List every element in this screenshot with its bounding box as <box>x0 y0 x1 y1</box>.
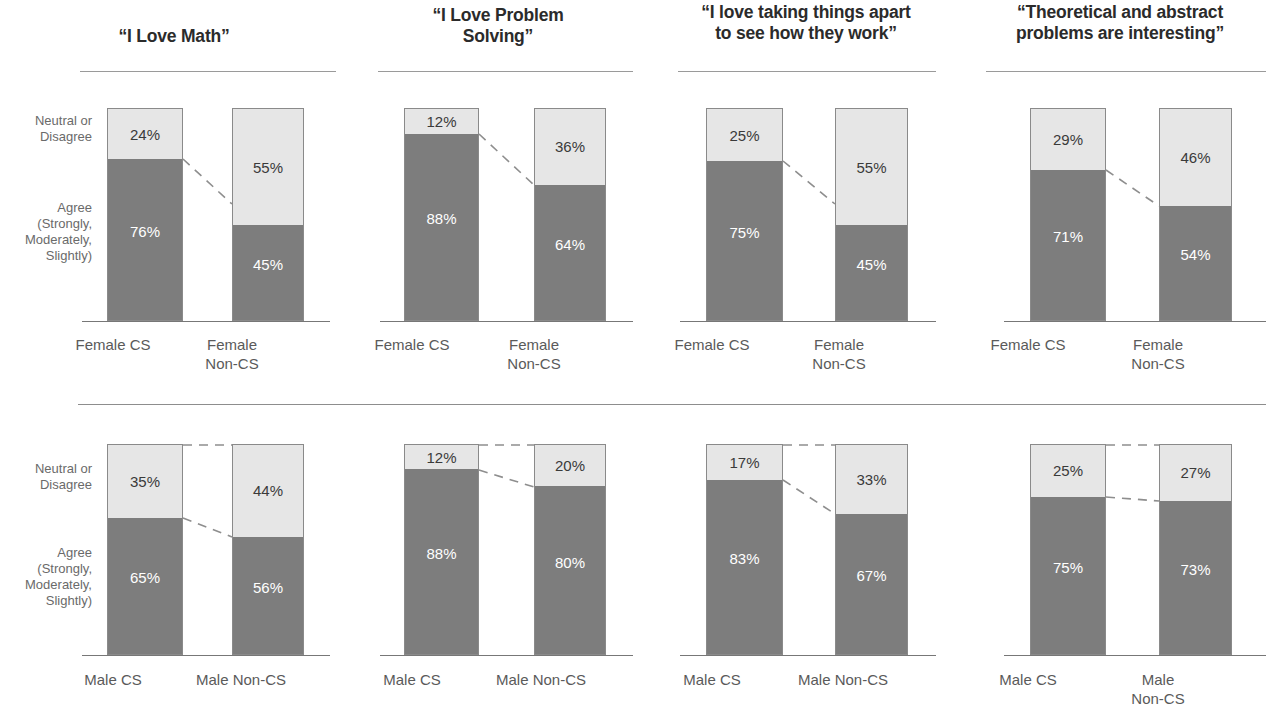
segment-neutral-or-disagree: 27% <box>1159 444 1232 501</box>
panel-love-math-male: 35% 65% 44% 56% <box>0 400 348 717</box>
segment-agree: 75% <box>1030 497 1106 655</box>
x-label-female-non-cs: Female Non-CS <box>176 335 288 373</box>
x-label-male-cs: Male CS <box>656 670 768 689</box>
segment-neutral-or-disagree: 36% <box>534 108 606 185</box>
segment-value-label: 12% <box>426 114 456 129</box>
bar-female-cs: 25% 75% <box>706 108 783 321</box>
bar-male-non-cs: 33% 67% <box>835 444 908 655</box>
title-underline <box>378 71 633 72</box>
bar-female-cs: 24% 76% <box>107 108 183 321</box>
segment-value-label: 75% <box>729 225 759 240</box>
baseline-axis <box>680 321 936 322</box>
segment-value-label: 44% <box>253 483 283 498</box>
segment-neutral-or-disagree: 12% <box>404 108 479 134</box>
panel-title-line-1: “Theoretical and abstract <box>964 2 1276 23</box>
segment-value-label: 55% <box>856 160 886 175</box>
x-label-male-non-cs: Male Non-CS <box>176 670 306 689</box>
segment-agree: 65% <box>107 518 183 655</box>
x-label-female-cs: Female CS <box>656 335 768 354</box>
panel-love-problem-solving-male: 12% 88% 20% 80% <box>348 400 648 717</box>
x-label-female-non-cs: Female Non-CS <box>783 335 895 373</box>
bar-male-non-cs: 44% 56% <box>232 444 304 655</box>
segment-agree: 76% <box>107 159 183 321</box>
segment-agree: 73% <box>1159 501 1232 655</box>
segment-value-label: 83% <box>729 551 759 566</box>
segment-neutral-or-disagree: 20% <box>534 444 606 486</box>
plot-area: 25% 75% 27% 73% <box>1004 444 1266 656</box>
segment-neutral-or-disagree: 29% <box>1030 108 1106 170</box>
baseline-axis <box>380 655 633 656</box>
segment-agree: 83% <box>706 480 783 655</box>
chart-row-female: Neutral or Disagree Agree (Strongly, Mod… <box>0 0 1276 400</box>
segment-neutral-or-disagree: 17% <box>706 444 783 480</box>
segment-value-label: 25% <box>1053 463 1083 478</box>
segment-value-label: 80% <box>555 555 585 570</box>
panel-theoretical-abstract-female: “Theoretical and abstract problems are i… <box>964 0 1276 400</box>
segment-value-label: 55% <box>253 160 283 175</box>
plot-area: 29% 71% 46% 54% <box>1004 108 1266 322</box>
bar-male-non-cs: 27% 73% <box>1159 444 1232 655</box>
segment-agree: 54% <box>1159 206 1232 321</box>
segment-agree: 71% <box>1030 170 1106 321</box>
segment-value-label: 45% <box>253 257 283 272</box>
segment-value-label: 12% <box>426 450 456 465</box>
segment-agree: 80% <box>534 486 606 655</box>
bar-female-non-cs: 55% 45% <box>232 108 304 321</box>
bar-male-cs: 35% 65% <box>107 444 183 655</box>
segment-agree: 45% <box>835 225 908 321</box>
bar-male-non-cs: 20% 80% <box>534 444 606 655</box>
x-label-female-cs: Female CS <box>972 335 1084 354</box>
x-label-male-cs: Male CS <box>57 670 169 689</box>
segment-value-label: 75% <box>1053 560 1083 575</box>
segment-value-label: 65% <box>130 570 160 585</box>
segment-value-label: 88% <box>426 546 456 561</box>
segment-agree: 56% <box>232 537 304 655</box>
plot-area: 25% 75% 55% 45% <box>680 108 936 322</box>
panel-taking-things-apart-male: 17% 83% 33% 67% <box>648 400 964 717</box>
x-label-female-non-cs: Female Non-CS <box>1102 335 1214 373</box>
title-underline <box>678 71 936 72</box>
segment-value-label: 76% <box>130 224 160 239</box>
panel-love-problem-solving-female: “I Love Problem Solving” 12% 88% 36% <box>348 0 648 400</box>
bar-female-non-cs: 46% 54% <box>1159 108 1232 321</box>
plot-area: 24% 76% 55% 45% <box>82 108 330 322</box>
x-label-male-non-cs: Male Non-CS <box>778 670 908 689</box>
segment-agree: 45% <box>232 225 304 321</box>
segment-value-label: 27% <box>1180 465 1210 480</box>
panel-love-math-female: “I Love Math” 24% 76% 55% <box>0 0 348 400</box>
segment-value-label: 25% <box>729 128 759 143</box>
segment-neutral-or-disagree: 12% <box>404 444 479 469</box>
baseline-axis <box>1004 655 1266 656</box>
baseline-axis <box>82 321 330 322</box>
x-label-female-cs: Female CS <box>57 335 169 354</box>
panel-title: “I love taking things apart to see how t… <box>648 2 964 44</box>
segment-value-label: 33% <box>856 472 886 487</box>
panel-title-line-1: “I Love Problem <box>348 5 648 26</box>
segment-value-label: 71% <box>1053 229 1083 244</box>
segment-value-label: 45% <box>856 257 886 272</box>
segment-value-label: 54% <box>1180 247 1210 262</box>
segment-neutral-or-disagree: 35% <box>107 444 183 518</box>
segment-neutral-or-disagree: 25% <box>1030 444 1106 497</box>
panel-title-line-1: “I Love Math” <box>0 26 348 47</box>
baseline-axis <box>82 655 330 656</box>
x-label-male-non-cs: Male Non-CS <box>1102 670 1214 708</box>
bar-female-cs: 12% 88% <box>404 108 479 321</box>
plot-area: 12% 88% 20% 80% <box>380 444 633 656</box>
panel-title-line-2: Solving” <box>348 26 648 47</box>
title-underline <box>80 71 336 72</box>
panel-title-line-2: to see how they work” <box>648 23 964 44</box>
baseline-axis <box>1004 321 1266 322</box>
segment-value-label: 24% <box>130 127 160 142</box>
bar-female-cs: 29% 71% <box>1030 108 1106 321</box>
segment-neutral-or-disagree: 25% <box>706 108 783 161</box>
title-underline <box>986 71 1266 72</box>
panel-taking-things-apart-female: “I love taking things apart to see how t… <box>648 0 964 400</box>
stacked-bar-chart-figure: Neutral or Disagree Agree (Strongly, Mod… <box>0 0 1276 717</box>
segment-value-label: 64% <box>555 237 585 252</box>
segment-agree: 64% <box>534 185 606 321</box>
segment-value-label: 46% <box>1180 150 1210 165</box>
segment-agree: 88% <box>404 134 479 321</box>
segment-value-label: 29% <box>1053 132 1083 147</box>
panel-title: “I Love Math” <box>0 26 348 47</box>
